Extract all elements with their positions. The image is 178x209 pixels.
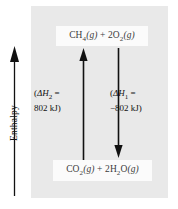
delta-h1-equals: = xyxy=(128,88,135,98)
delta-h2-value: 802 kJ) xyxy=(34,103,61,114)
enthalpy-diagram: Enthalpy CH4(g) + 2O2(g) CO2(g) + 2H2O(g… xyxy=(0,0,178,209)
species-bottom-a-state: (g) xyxy=(83,164,94,174)
species-bottom-b-coeff: 2H xyxy=(105,164,117,174)
species-bottom-formula: CO2(g) + 2H2O(g) xyxy=(66,164,139,177)
species-bottom-plus: + xyxy=(97,164,102,174)
species-top-formula: CH4(g) + 2O2(g) xyxy=(69,30,135,43)
species-bottom-b-state: (g) xyxy=(127,164,138,174)
species-top-plus: + xyxy=(100,30,105,40)
enthalpy-axis: Enthalpy xyxy=(0,46,30,196)
delta-h2-symbol: ΔH xyxy=(37,88,49,98)
delta-h1-value: −802 kJ) xyxy=(110,103,142,114)
delta-h1-line1: (ΔH1 = xyxy=(110,88,142,103)
delta-h2-equals: = xyxy=(52,88,59,98)
species-top-b-state: (g) xyxy=(123,30,134,40)
delta-h2-annotation: (ΔH2 = 802 kJ) xyxy=(34,88,61,114)
delta-h1-annotation: (ΔH1 = −802 kJ) xyxy=(110,88,142,114)
species-top-a-element: CH xyxy=(69,30,82,40)
delta-h2-line1: (ΔH2 = xyxy=(34,88,61,103)
enthalpy-axis-label: Enthalpy xyxy=(9,86,19,160)
species-bottom-a-element: CO xyxy=(66,164,79,174)
species-label-reactants: CH4(g) + 2O2(g) xyxy=(56,26,148,46)
species-top-b-coeff: 2O xyxy=(108,30,120,40)
species-label-products: CO2(g) + 2H2O(g) xyxy=(53,160,152,181)
species-top-a-state: (g) xyxy=(86,30,97,40)
delta-h1-symbol: ΔH xyxy=(113,88,125,98)
